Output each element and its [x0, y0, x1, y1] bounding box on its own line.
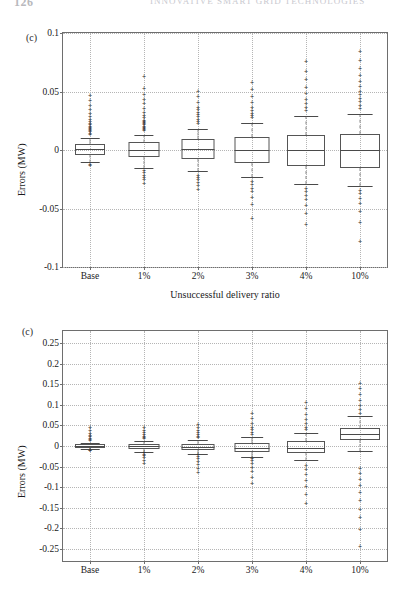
y-tick-label: 0	[54, 441, 59, 451]
x-tick-mark	[90, 561, 91, 564]
x-tick-label: 10%	[351, 271, 368, 281]
whisker-upper	[198, 129, 199, 140]
x-tick-mark	[252, 561, 253, 564]
cap-upper	[348, 416, 373, 417]
whisker-lower	[360, 440, 361, 451]
panel-tag: (c)	[22, 326, 33, 337]
boxplot-1pct: +++++++++++++	[117, 331, 171, 561]
x-tick-mark	[144, 561, 145, 564]
x-tick-mark	[306, 267, 307, 270]
whisker-lower	[306, 166, 307, 184]
x-tick-mark	[360, 561, 361, 564]
panel-tag: (c)	[26, 32, 37, 43]
y-tick-label: -0.05	[39, 204, 59, 214]
x-tick-label: 2%	[192, 271, 205, 281]
x-tick-label: 3%	[246, 565, 259, 575]
cap-upper	[348, 114, 373, 115]
cap-upper	[134, 135, 153, 136]
boxplot-2pct: ++++++++++++++	[171, 331, 225, 561]
plot-area-bottom: 0.250.20.150.10.050-0.05-0.1-0.15-0.2-0.…	[62, 330, 388, 562]
x-tick-label: Base	[81, 271, 99, 281]
y-tick-label: -0.1	[44, 482, 59, 492]
x-axis-label: Unsuccessful delivery ratio	[62, 289, 388, 300]
cap-lower	[348, 451, 373, 452]
whisker-lower	[252, 163, 253, 177]
figure-panel-c-top: (c) Errors (MW) Unsuccessful delivery ra…	[0, 14, 411, 314]
median-line	[340, 150, 380, 151]
figure-panel-c-bottom: (c) Errors (MW) 0.250.20.150.10.050-0.05…	[0, 318, 411, 603]
y-tick-label: 0	[54, 145, 59, 155]
boxplot-10pct: +++++++++++++++++	[333, 331, 387, 561]
median-line	[235, 448, 270, 449]
whisker-upper	[360, 416, 361, 427]
y-tick-label: -0.05	[39, 462, 59, 472]
boxplot-3pct: ++++++++++++++++	[225, 33, 279, 267]
y-tick-label: 0.05	[42, 420, 59, 430]
whisker-upper	[306, 433, 307, 441]
boxplot-4pct: ++++++++++++++++	[279, 33, 333, 267]
page-header: 126 Innovative Smart Grid Technologies	[0, 0, 411, 7]
x-tick-mark	[198, 267, 199, 270]
y-tick-label: -0.15	[39, 503, 59, 513]
whisker-upper	[360, 114, 361, 134]
boxplot-base: ++++++++++	[63, 331, 117, 561]
x-tick-label: 4%	[300, 271, 313, 281]
median-line	[75, 149, 105, 150]
y-tick-label: -0.25	[39, 544, 59, 554]
whisker-lower	[306, 453, 307, 460]
y-tick-label: 0.25	[42, 338, 59, 348]
whisker-lower	[144, 157, 145, 168]
boxplot-1pct: +++++++++++++++++++++++++	[117, 33, 171, 267]
x-tick-mark	[306, 561, 307, 564]
median-line	[182, 149, 215, 150]
median-line	[129, 446, 160, 447]
whisker-upper	[252, 123, 253, 137]
x-tick-mark	[90, 267, 91, 270]
x-tick-mark	[360, 267, 361, 270]
running-title: Innovative Smart Grid Technologies	[150, 0, 365, 6]
y-tick-label: 0.2	[47, 359, 59, 369]
median-line	[287, 150, 325, 151]
x-tick-mark	[144, 267, 145, 270]
median-line	[340, 434, 380, 435]
boxplot-3pct: ++++++++++++++	[225, 331, 279, 561]
cap-upper	[81, 138, 100, 139]
median-line	[287, 448, 325, 449]
whisker-upper	[306, 116, 307, 135]
x-tick-label: 10%	[351, 565, 368, 575]
y-axis-label: Errors (MW)	[16, 144, 27, 196]
x-tick-mark	[252, 267, 253, 270]
median-line	[129, 150, 160, 151]
x-tick-label: 2%	[192, 565, 205, 575]
cap-upper	[188, 129, 208, 130]
x-tick-label: Base	[81, 565, 99, 575]
boxplot-base: ++++++++++++++++++++	[63, 33, 117, 267]
y-tick-mark	[60, 267, 63, 268]
y-tick-label: 0.05	[42, 87, 59, 97]
y-tick-label: 0.1	[47, 400, 59, 410]
whisker-lower	[360, 168, 361, 187]
cap-upper	[294, 116, 318, 117]
boxplot-2pct: +++++++++++++++++	[171, 33, 225, 267]
x-tick-label: 4%	[300, 565, 313, 575]
page-folio: 126	[14, 0, 34, 7]
median-line	[182, 447, 215, 448]
x-tick-label: 3%	[246, 271, 259, 281]
cap-upper	[241, 123, 263, 124]
boxplot-10pct: +++++++++++++++++++	[333, 33, 387, 267]
y-tick-label: -0.2	[44, 523, 59, 533]
whisker-upper	[144, 135, 145, 142]
y-axis-label: Errors (MW)	[16, 446, 27, 498]
y-tick-label: 0.1	[47, 28, 59, 38]
whisker-lower	[198, 159, 199, 171]
y-tick-label: -0.1	[44, 262, 59, 272]
x-tick-label: 1%	[138, 565, 151, 575]
boxplot-4pct: ++++++++++++++	[279, 331, 333, 561]
plot-area-top: 0.10.050-0.05-0.1Base1%2%3%4%10%++++++++…	[62, 32, 388, 268]
x-tick-label: 1%	[138, 271, 151, 281]
y-tick-label: 0.15	[42, 379, 59, 389]
median-line	[235, 150, 270, 151]
x-tick-mark	[198, 561, 199, 564]
gridline-horizontal	[63, 267, 387, 268]
